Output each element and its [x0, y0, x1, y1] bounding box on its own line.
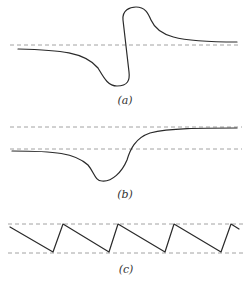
figure-canvas: (a) (b) (c): [0, 0, 252, 281]
panel-a-label: (a): [117, 94, 132, 107]
panel-c: (c): [8, 224, 244, 276]
panel-c-sawtooth: [10, 224, 239, 252]
panel-b: (b): [10, 127, 242, 201]
panel-a-curve: [18, 7, 237, 86]
panel-b-curve: [12, 128, 237, 181]
panel-a: (a): [10, 7, 240, 107]
panel-c-label: (c): [119, 263, 134, 276]
panel-b-label: (b): [117, 188, 133, 201]
